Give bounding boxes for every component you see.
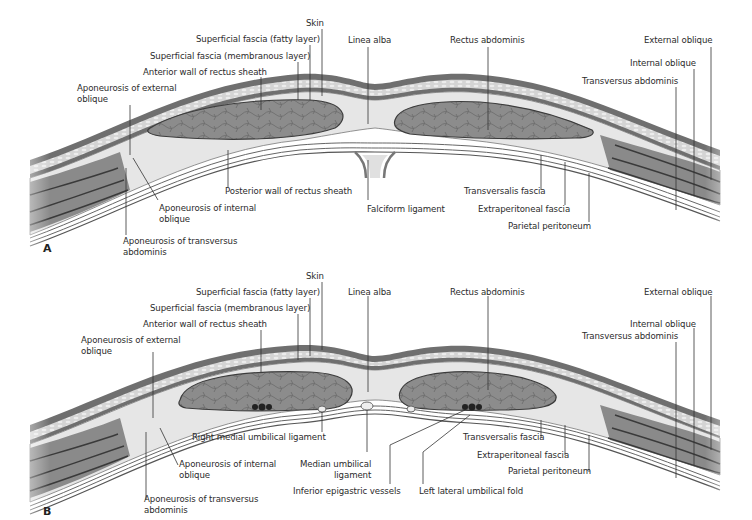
label-falciform-ligament: Falciform ligament	[367, 204, 445, 215]
label-aponeurosis-external-oblique: Aponeurosis of external oblique	[77, 83, 177, 105]
label-linea-alba: Linea alba	[348, 35, 391, 46]
label-anterior-wall-rectus-sheath: Anterior wall of rectus sheath	[143, 67, 267, 78]
label-skin: Skin	[306, 271, 324, 282]
abdominal-wall-illustration-b	[0, 260, 752, 520]
label-superficial-fascia-fatty: Superficial fascia (fatty layer)	[196, 34, 320, 45]
label-aponeurosis-transversus: Aponeurosis of transversus abdominis	[144, 494, 258, 516]
label-parietal-peritoneum: Parietal peritoneum	[508, 221, 591, 232]
label-transversalis-fascia: Transversalis fascia	[463, 432, 545, 443]
label-superficial-fascia-membranous: Superficial fascia (membranous layer)	[150, 303, 310, 314]
panel-a-cross-section: Skin Superficial fascia (fatty layer) Su…	[0, 0, 752, 260]
label-aponeurosis-transversus: Aponeurosis of transversus abdominis	[123, 236, 237, 258]
panel-b-cross-section: Skin Superficial fascia (fatty layer) Su…	[0, 260, 752, 520]
label-extraperitoneal-fascia: Extraperitoneal fascia	[477, 450, 569, 461]
label-extraperitoneal-fascia: Extraperitoneal fascia	[478, 204, 570, 215]
label-aponeurosis-internal-oblique: Aponeurosis of internal oblique	[179, 459, 276, 481]
label-anterior-wall-rectus-sheath: Anterior wall of rectus sheath	[143, 319, 267, 330]
label-left-lateral-umbilical-fold: Left lateral umbilical fold	[419, 486, 523, 497]
label-internal-oblique: Internal oblique	[630, 58, 696, 69]
label-skin: Skin	[306, 18, 324, 29]
label-rectus-abdominis: Rectus abdominis	[450, 287, 525, 298]
label-internal-oblique: Internal oblique	[630, 319, 696, 330]
label-parietal-peritoneum: Parietal peritoneum	[508, 466, 591, 477]
label-transversus-abdominis: Transversus abdominis	[582, 331, 678, 342]
label-median-umbilical-ligament: Median umbilical ligament	[300, 459, 371, 481]
label-posterior-wall-rectus-sheath: Posterior wall of rectus sheath	[225, 186, 352, 197]
label-inferior-epigastric-vessels: Inferior epigastric vessels	[293, 486, 401, 497]
label-linea-alba: Linea alba	[348, 287, 391, 298]
label-aponeurosis-internal-oblique: Aponeurosis of internal oblique	[159, 203, 256, 225]
label-right-medial-umbilical-ligament: Right medial umbilical ligament	[192, 432, 326, 443]
label-transversalis-fascia: Transversalis fascia	[464, 186, 546, 197]
label-aponeurosis-external-oblique: Aponeurosis of external oblique	[81, 335, 181, 357]
label-superficial-fascia-fatty: Superficial fascia (fatty layer)	[196, 287, 320, 298]
label-external-oblique: External oblique	[644, 287, 712, 298]
label-rectus-abdominis: Rectus abdominis	[450, 35, 525, 46]
panel-letter-a: A	[43, 242, 52, 255]
label-external-oblique: External oblique	[644, 35, 712, 46]
panel-letter-b: B	[43, 505, 51, 518]
label-superficial-fascia-membranous: Superficial fascia (membranous layer)	[150, 51, 310, 62]
label-transversus-abdominis: Transversus abdominis	[582, 76, 678, 87]
